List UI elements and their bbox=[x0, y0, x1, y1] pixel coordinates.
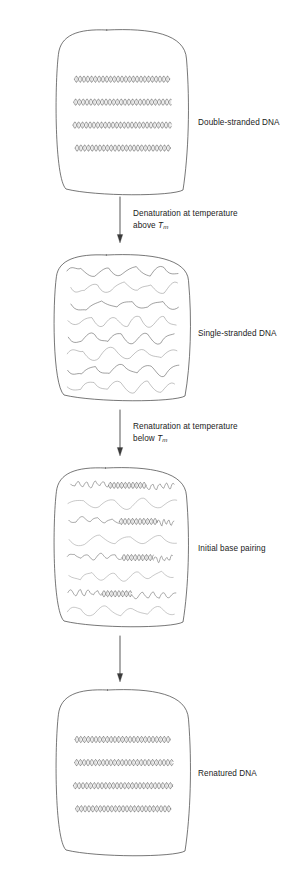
renaturation-tm-subscript: m bbox=[162, 436, 167, 443]
stage-label-double-stranded-dna: Double-stranded DNA bbox=[198, 117, 280, 128]
stage-label-initial-base-pairing: Initial base pairing bbox=[198, 543, 266, 554]
denaturation-line1: Denaturation at temperature bbox=[133, 209, 238, 218]
stage-label-renatured-dna: Renatured DNA bbox=[198, 768, 257, 779]
renaturation-line2: below Tm bbox=[133, 433, 238, 446]
renaturation-arrow-label: Renaturation at temperature below Tm bbox=[133, 421, 238, 445]
denaturation-arrow-label: Denaturation at temperature above Tm bbox=[133, 208, 238, 232]
renaturation-line2-prefix: below bbox=[133, 434, 157, 443]
denaturation-tm-subscript: m bbox=[163, 223, 168, 230]
denaturation-line2-prefix: above bbox=[133, 221, 158, 230]
denaturation-line2: above Tm bbox=[133, 220, 238, 233]
stage-label-single-stranded-dna: Single-stranded DNA bbox=[198, 328, 276, 339]
dna-denaturation-diagram: Double-stranded DNA Single-stranded DNA … bbox=[0, 0, 308, 881]
renaturation-line1: Renaturation at temperature bbox=[133, 422, 238, 431]
